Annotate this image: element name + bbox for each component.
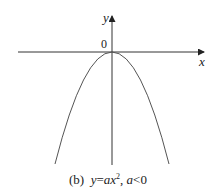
origin-label: 0	[101, 37, 107, 52]
graph-canvas	[0, 0, 216, 193]
parabola-figure: y 0 x (b) y=ax2, a<0	[0, 0, 216, 193]
x-axis-label: x	[199, 54, 205, 70]
caption-eq: =	[96, 172, 103, 187]
y-axis-label: y	[103, 10, 109, 26]
caption-sep: ,	[120, 172, 123, 187]
figure-caption: (b) y=ax2, a<0	[0, 172, 216, 188]
caption-zero: 0	[140, 172, 147, 187]
caption-prefix: (b)	[69, 172, 84, 187]
